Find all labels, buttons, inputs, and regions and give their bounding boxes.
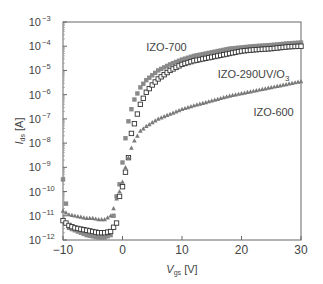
y-tick-label: 10 <box>29 40 41 52</box>
y-tick-exponent: −3 <box>42 14 51 23</box>
y-tick-label: 10 <box>29 89 41 101</box>
x-tick-label: 10 <box>175 243 189 257</box>
y-tick-exponent: −11 <box>42 208 54 217</box>
y-tick-label: 10 <box>29 16 41 28</box>
y-tick-exponent: −8 <box>42 135 51 144</box>
y-tick-exponent: −7 <box>42 111 51 120</box>
data-point <box>299 44 303 48</box>
data-point <box>132 138 137 142</box>
data-point <box>120 160 124 164</box>
y-axis-title: Ids [A] <box>13 118 26 145</box>
series-label: IZO-700 <box>146 41 186 53</box>
data-point <box>299 79 304 83</box>
x-tick-label: 30 <box>294 243 308 257</box>
data-point <box>132 122 136 126</box>
data-point <box>129 107 133 111</box>
y-tick-exponent: −5 <box>42 62 51 71</box>
y-tick-label: 10 <box>29 113 41 125</box>
data-point <box>138 102 142 106</box>
series-label: IZO-290UV/O3 <box>218 68 290 83</box>
data-point <box>141 96 145 100</box>
data-point <box>123 136 127 140</box>
series-izo-600 <box>61 79 304 221</box>
x-axis-title: Vgs [V] <box>166 263 197 277</box>
y-tick-exponent: −4 <box>42 38 51 47</box>
data-point <box>117 194 121 198</box>
data-point <box>123 170 127 174</box>
y-tick-label: 10 <box>29 137 41 149</box>
y-tick-exponent: −9 <box>42 159 51 168</box>
data-point <box>111 225 115 229</box>
x-tick-label: 20 <box>235 243 249 257</box>
data-point <box>129 146 134 150</box>
series-label: IZO-600 <box>253 106 293 118</box>
y-tick-exponent: −12 <box>42 232 55 241</box>
plot-border <box>63 22 301 240</box>
plot-frame <box>63 22 301 240</box>
data-point <box>111 206 116 210</box>
data-point <box>114 221 118 225</box>
data-point <box>64 201 68 205</box>
data-point <box>117 189 122 193</box>
y-tick-exponent: −6 <box>42 87 51 96</box>
y-tick-label: 10 <box>29 161 41 173</box>
y-axis-ticks: 10−1210−1110−1010−910−810−710−610−510−41… <box>29 14 67 246</box>
data-point <box>108 229 112 233</box>
x-tick-label: −10 <box>53 243 74 257</box>
x-axis-ticks: −100102030 <box>53 236 308 257</box>
data-point <box>126 119 130 123</box>
y-tick-label: 10 <box>29 64 41 76</box>
y-tick-label: 10 <box>29 210 41 222</box>
data-point <box>61 209 66 213</box>
data-point <box>129 131 133 135</box>
y-tick-label: 10 <box>29 234 41 246</box>
data-point <box>135 112 139 116</box>
data-point <box>135 133 140 137</box>
y-tick-label: 10 <box>29 186 41 198</box>
data-point <box>123 165 128 169</box>
y-tick-exponent: −10 <box>42 184 55 193</box>
x-tick-label: 0 <box>119 243 126 257</box>
data-point <box>120 185 124 189</box>
data-point <box>135 91 139 95</box>
transfer-characteristic-chart: 10−1210−1110−1010−910−810−710−610−510−41… <box>0 0 323 284</box>
data-point <box>132 97 136 101</box>
data-point <box>120 179 125 183</box>
data-point <box>61 177 65 181</box>
